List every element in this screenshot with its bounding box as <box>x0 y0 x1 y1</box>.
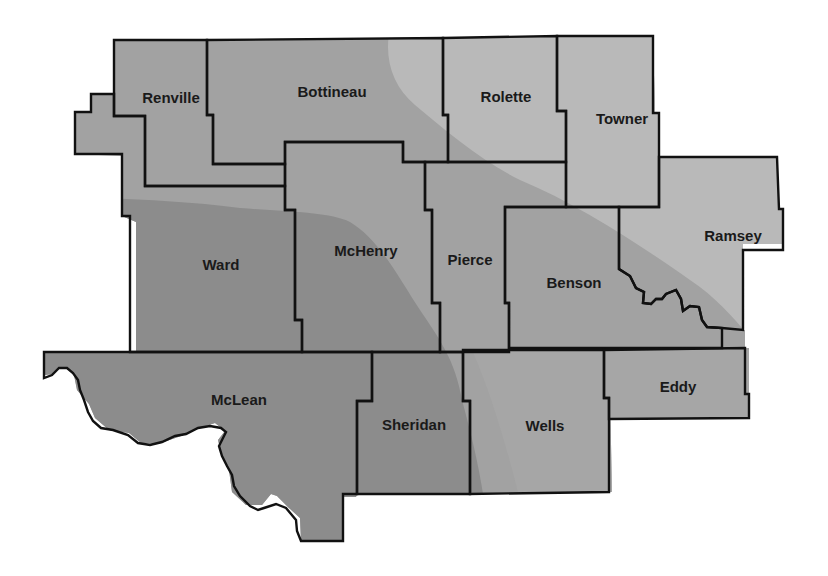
label-mclean: McLean <box>211 391 267 408</box>
label-mchenry: McHenry <box>334 242 398 259</box>
label-eddy: Eddy <box>660 378 697 395</box>
shading-zones <box>0 0 828 576</box>
label-ramsey: Ramsey <box>704 227 762 244</box>
label-wells: Wells <box>526 417 565 434</box>
county-map: Renville Bottineau Rolette Towner Ward M… <box>0 0 828 576</box>
label-towner: Towner <box>596 110 648 127</box>
label-benson: Benson <box>546 274 601 291</box>
label-ward: Ward <box>203 256 240 273</box>
label-sheridan: Sheridan <box>382 416 446 433</box>
label-bottineau: Bottineau <box>297 83 366 100</box>
label-rolette: Rolette <box>481 88 532 105</box>
label-renville: Renville <box>142 89 200 106</box>
label-pierce: Pierce <box>447 251 492 268</box>
